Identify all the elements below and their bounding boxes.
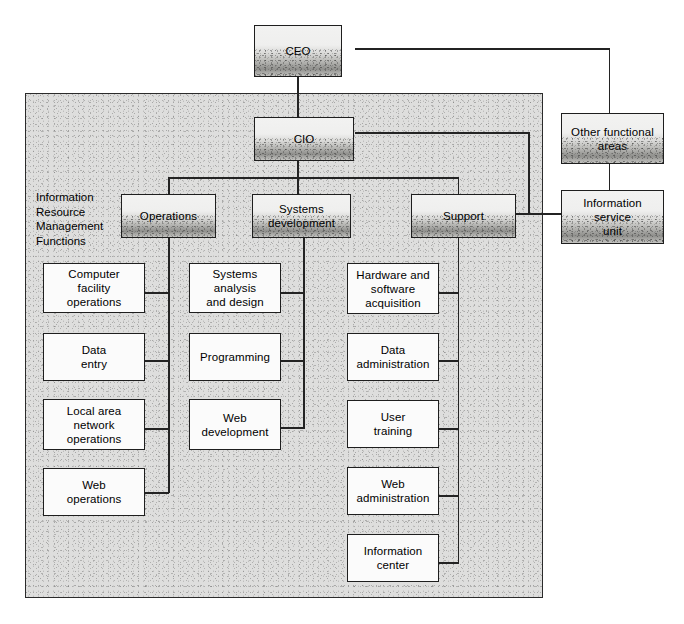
- stub-web-administration: [438, 495, 459, 497]
- connector-other-areas-to-service-unit: [609, 163, 611, 190]
- node-other-functional-areas[interactable]: Other functional areas: [561, 113, 664, 164]
- stub-data-administration: [438, 360, 459, 362]
- stub-web-operations: [145, 492, 169, 494]
- connector-division-bus: [168, 177, 459, 179]
- stub-local-area-network-operations: [145, 428, 169, 430]
- stub-data-entry: [145, 360, 169, 362]
- connector-ceo-right: [355, 48, 610, 50]
- node-information-center[interactable]: Information center: [347, 534, 439, 582]
- node-systems-analysis-and-design-label: Systems analysis and design: [203, 267, 266, 309]
- node-user-training[interactable]: User training: [347, 400, 439, 448]
- node-programming[interactable]: Programming: [189, 333, 281, 381]
- connector-support-to-service-unit: [516, 213, 561, 215]
- node-ceo[interactable]: CEO: [254, 25, 342, 77]
- stub-programming: [281, 360, 305, 362]
- node-systems-development-label: Systems development: [265, 202, 338, 230]
- node-web-operations[interactable]: Web operations: [43, 468, 145, 516]
- node-web-development[interactable]: Web development: [189, 399, 281, 450]
- node-local-area-network-operations[interactable]: Local area network operations: [43, 399, 145, 450]
- node-web-administration-label: Web administration: [354, 477, 433, 505]
- spine-operations: [168, 238, 170, 493]
- spine-systems-development: [303, 238, 305, 428]
- stub-user-training: [438, 428, 459, 430]
- node-information-center-label: Information center: [361, 544, 426, 572]
- node-data-administration[interactable]: Data administration: [347, 333, 439, 381]
- connector-cio-right: [355, 132, 529, 134]
- node-cio[interactable]: CIO: [254, 117, 354, 161]
- node-systems-analysis-and-design[interactable]: Systems analysis and design: [189, 263, 281, 313]
- stub-information-center: [438, 562, 459, 564]
- node-data-administration-label: Data administration: [354, 343, 433, 371]
- node-other-functional-areas-label: Other functional areas: [568, 125, 657, 153]
- node-local-area-network-operations-label: Local area network operations: [64, 404, 125, 446]
- stub-web-development: [281, 427, 305, 429]
- node-web-development-label: Web development: [199, 411, 272, 439]
- connector-ceo-to-cio: [297, 76, 299, 118]
- node-operations[interactable]: Operations: [121, 194, 216, 238]
- node-user-training-label: User training: [371, 410, 416, 438]
- node-data-entry-label: Data entry: [78, 343, 110, 371]
- connector-bus-to-support: [458, 177, 460, 195]
- node-cio-label: CIO: [291, 132, 318, 146]
- node-hardware-and-software-acquisition[interactable]: Hardware and software acquisition: [347, 263, 439, 314]
- org-chart-canvas: Information Resource Management Function…: [0, 0, 684, 624]
- node-data-entry[interactable]: Data entry: [43, 333, 145, 381]
- node-systems-development[interactable]: Systems development: [252, 194, 351, 238]
- node-computer-facility-operations-label: Computer facility operations: [64, 267, 125, 309]
- spine-support: [458, 238, 460, 563]
- node-information-service-unit-label: Information service unit: [580, 196, 645, 238]
- node-web-operations-label: Web operations: [64, 478, 125, 506]
- node-programming-label: Programming: [197, 350, 273, 364]
- connector-bus-to-operations: [168, 177, 170, 195]
- node-ceo-label: CEO: [282, 44, 313, 58]
- node-computer-facility-operations[interactable]: Computer facility operations: [43, 263, 145, 313]
- node-web-administration[interactable]: Web administration: [347, 467, 439, 515]
- node-hardware-and-software-acquisition-label: Hardware and software acquisition: [353, 268, 432, 310]
- node-operations-label: Operations: [137, 209, 200, 223]
- stub-systems-analysis-and-design: [281, 292, 305, 294]
- irm-functions-caption: Information Resource Management Function…: [36, 190, 126, 248]
- node-support[interactable]: Support: [411, 194, 516, 238]
- node-information-service-unit[interactable]: Information service unit: [561, 190, 664, 244]
- stub-hardware-and-software-acquisition: [438, 292, 459, 294]
- stub-computer-facility-operations: [145, 292, 169, 294]
- connector-ceo-down-to-other-areas: [609, 48, 611, 113]
- node-support-label: Support: [440, 209, 487, 223]
- connector-cio-down-to-support-row: [528, 132, 530, 214]
